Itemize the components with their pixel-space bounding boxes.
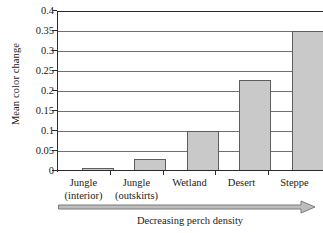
x-axis-category-label: Jungle (interior) <box>57 176 110 202</box>
x-tick-mark <box>163 171 164 175</box>
x-category-line1: Desert <box>215 176 268 189</box>
x-tick-mark <box>215 171 216 175</box>
y-tick-label: 0.1 <box>18 125 54 136</box>
x-tick-mark <box>110 171 111 175</box>
arrow-caption: Decreasing perch density <box>57 214 323 228</box>
x-axis-category-label: Desert <box>215 176 268 189</box>
gridline <box>57 31 323 32</box>
bar <box>187 131 219 171</box>
y-tick-label: 0.15 <box>18 105 54 116</box>
bar-chart: Mean color change 0.4 0.35 0.3 0.25 0.2 … <box>0 0 323 233</box>
x-category-line1: Wetland <box>163 176 216 189</box>
gridline <box>57 11 323 12</box>
x-category-line1: Steppe <box>268 176 321 189</box>
x-category-line1: Jungle <box>57 176 110 189</box>
plot-area <box>57 11 323 171</box>
x-axis-category-label: Steppe <box>268 176 321 189</box>
gridline <box>57 71 323 72</box>
gridline <box>57 91 323 92</box>
gridline <box>57 111 323 112</box>
y-tick-label: 0.25 <box>18 65 54 76</box>
x-axis-category-label: Jungle (outskirts) <box>110 176 163 202</box>
y-axis-line <box>57 11 58 172</box>
y-tick-label: 0.05 <box>18 145 54 156</box>
bar <box>239 80 271 171</box>
y-tick-label: 0.2 <box>18 85 54 96</box>
gridline <box>57 51 323 52</box>
right-arrow-icon <box>58 200 316 214</box>
x-tick-mark <box>268 171 269 175</box>
y-tick-label: 0.4 <box>18 5 54 16</box>
y-tick-label: 0.3 <box>18 45 54 56</box>
decreasing-perch-density-arrow <box>58 200 316 214</box>
y-tick-label: 0.35 <box>18 25 54 36</box>
y-axis-tick-labels: 0.4 0.35 0.3 0.25 0.2 0.15 0.1 0.05 0 <box>18 0 54 233</box>
y-tick-label: 0 <box>18 165 54 176</box>
x-axis-category-label: Wetland <box>163 176 216 189</box>
x-axis-line <box>57 170 323 171</box>
bar <box>292 31 323 171</box>
x-category-line1: Jungle <box>110 176 163 189</box>
